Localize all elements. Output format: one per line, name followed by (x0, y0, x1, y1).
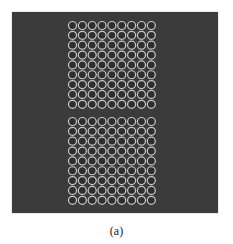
ring-element (88, 137, 96, 145)
ring-element (137, 147, 145, 155)
ring-element (118, 31, 126, 39)
ring-element (98, 81, 106, 89)
ring-element (98, 196, 106, 204)
ring-element (78, 41, 86, 49)
ring-element (98, 147, 106, 155)
ring-element (69, 196, 77, 204)
ring-element (69, 118, 77, 126)
ring-element (128, 61, 136, 69)
ring-element (98, 118, 106, 126)
ring-element (147, 61, 155, 69)
ring-element (98, 157, 106, 165)
ring-element (108, 137, 116, 145)
ring-element (128, 31, 136, 39)
ring-element (128, 177, 136, 185)
ring-element (69, 167, 77, 175)
ring-element (88, 71, 96, 79)
ring-element (108, 167, 116, 175)
ring-element (128, 118, 136, 126)
ring-element (98, 167, 106, 175)
ring-element (128, 81, 136, 89)
ring-element (78, 177, 86, 185)
ring-element (147, 177, 155, 185)
ring-element (128, 71, 136, 79)
ring-element (128, 147, 136, 155)
ring-element (88, 157, 96, 165)
ring-element (137, 177, 145, 185)
ring-element (108, 177, 116, 185)
ring-element (88, 100, 96, 108)
ring-element (118, 51, 126, 59)
ring-element (78, 186, 86, 194)
ring-element (69, 81, 77, 89)
ring-element (98, 22, 106, 30)
ring-element (137, 186, 145, 194)
ring-element (147, 41, 155, 49)
ring-element (118, 90, 126, 98)
ring-element (88, 177, 96, 185)
ring-element (108, 41, 116, 49)
ring-element (118, 196, 126, 204)
ring-element (78, 196, 86, 204)
ring-element (88, 118, 96, 126)
ring-element (88, 61, 96, 69)
ring-element (147, 81, 155, 89)
ring-element (147, 186, 155, 194)
ring-element (78, 31, 86, 39)
ring-element (118, 118, 126, 126)
ring-element (98, 186, 106, 194)
circle-array-graphic (0, 0, 233, 244)
ring-element (69, 90, 77, 98)
ring-element (118, 71, 126, 79)
ring-element (118, 100, 126, 108)
ring-element (98, 71, 106, 79)
top-array (69, 22, 156, 109)
ring-element (98, 90, 106, 98)
ring-element (128, 127, 136, 135)
ring-element (137, 61, 145, 69)
ring-element (128, 100, 136, 108)
ring-element (78, 81, 86, 89)
ring-element (118, 186, 126, 194)
ring-element (88, 147, 96, 155)
ring-element (98, 100, 106, 108)
ring-element (137, 100, 145, 108)
ring-element (78, 147, 86, 155)
ring-element (88, 127, 96, 135)
ring-element (128, 137, 136, 145)
ring-element (108, 31, 116, 39)
ring-element (108, 147, 116, 155)
ring-element (147, 100, 155, 108)
ring-element (78, 137, 86, 145)
ring-element (69, 100, 77, 108)
ring-element (88, 196, 96, 204)
ring-element (147, 147, 155, 155)
ring-element (69, 71, 77, 79)
ring-element (88, 51, 96, 59)
ring-element (137, 31, 145, 39)
ring-element (118, 127, 126, 135)
ring-element (88, 41, 96, 49)
ring-element (108, 127, 116, 135)
ring-element (118, 137, 126, 145)
ring-element (128, 157, 136, 165)
ring-element (108, 90, 116, 98)
ring-element (118, 22, 126, 30)
ring-element (78, 51, 86, 59)
ring-element (128, 51, 136, 59)
ring-element (128, 186, 136, 194)
ring-element (69, 157, 77, 165)
ring-element (108, 100, 116, 108)
ring-element (108, 61, 116, 69)
circle-arrays (69, 22, 156, 205)
ring-element (88, 167, 96, 175)
ring-element (137, 22, 145, 30)
ring-element (78, 167, 86, 175)
ring-element (147, 157, 155, 165)
ring-element (88, 81, 96, 89)
ring-element (69, 177, 77, 185)
ring-element (137, 167, 145, 175)
ring-element (78, 22, 86, 30)
ring-element (88, 22, 96, 30)
ring-element (137, 157, 145, 165)
